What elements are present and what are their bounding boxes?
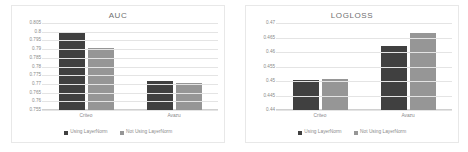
gridline — [276, 67, 452, 68]
bar — [322, 79, 348, 110]
legend-swatch-icon — [354, 131, 358, 135]
legend-swatch-icon — [298, 131, 302, 135]
y-axis-tick-label: 0.78 — [32, 64, 41, 69]
y-axis-tick-label: 0.445 — [264, 93, 276, 98]
bar — [176, 83, 202, 110]
legend-item[interactable]: Using LayerNorm — [298, 130, 342, 135]
y-axis-tick-label: 0.44 — [266, 108, 275, 113]
gridline — [42, 84, 218, 85]
bar — [59, 33, 85, 110]
legend-swatch-icon — [120, 131, 124, 135]
legend-item[interactable]: Not Using LayerNorm — [354, 130, 407, 135]
gridline — [42, 67, 218, 68]
legend-label: Using LayerNorm — [304, 130, 341, 135]
y-axis-tick-label: 0.455 — [264, 64, 276, 69]
gridline — [276, 52, 452, 53]
y-axis-tick-label: 0.8 — [35, 29, 41, 34]
y-axis-tick-label: 0.79 — [32, 47, 41, 52]
legend-label: Not Using LayerNorm — [126, 130, 172, 135]
y-axis-tick-label: 0.785 — [30, 56, 42, 61]
gridline — [42, 58, 218, 59]
chart-frame-logloss: LOGLOSS 0.470.4650.460.4550.450.4450.44 … — [245, 5, 459, 143]
y-axis-tick-label: 0.765 — [30, 90, 42, 95]
chart-panel-logloss: LOGLOSS 0.470.4650.460.4550.450.4450.44 … — [234, 0, 468, 152]
x-axis-labels-auc: CriteoAvazu — [42, 111, 218, 121]
y-axis-tick-label: 0.775 — [30, 73, 42, 78]
legend-item[interactable]: Using LayerNorm — [64, 130, 108, 135]
legend-item[interactable]: Not Using LayerNorm — [120, 130, 173, 135]
gridline — [42, 32, 218, 33]
plot-wrap-logloss: 0.470.4650.460.4550.450.4450.44 CriteoAv… — [246, 6, 458, 142]
legend-swatch-icon — [64, 131, 68, 135]
legend-logloss: Using LayerNormNot Using LayerNorm — [246, 130, 458, 135]
gridline — [42, 23, 218, 24]
legend-label: Using LayerNorm — [70, 130, 107, 135]
legend-label: Not Using LayerNorm — [360, 130, 406, 135]
y-axis-tick-label: 0.47 — [266, 21, 275, 26]
y-axis-tick-label: 0.45 — [266, 79, 275, 84]
x-axis-category-label: Avazu — [130, 111, 218, 121]
y-axis-tick-label: 0.805 — [30, 21, 42, 26]
y-axis-tick-label: 0.77 — [32, 82, 41, 87]
plot-area-logloss — [276, 23, 452, 110]
gridline — [276, 23, 452, 24]
y-axis-tick-label: 0.755 — [30, 108, 42, 113]
gridline — [42, 75, 218, 76]
y-axis-tick-label: 0.46 — [266, 50, 275, 55]
gridline — [276, 38, 452, 39]
bar — [147, 81, 173, 110]
x-axis-category-label: Avazu — [364, 111, 452, 121]
gridline — [42, 40, 218, 41]
y-axis-tick-label: 0.465 — [264, 35, 276, 40]
bar — [410, 33, 436, 110]
x-axis-category-label: Criteo — [42, 111, 130, 121]
gridline — [42, 101, 218, 102]
chart-panel-auc: AUC 0.8050.80.7950.790.7850.780.7750.770… — [0, 0, 234, 152]
gridline — [276, 81, 452, 82]
x-axis-category-label: Criteo — [276, 111, 364, 121]
plot-area-auc — [42, 23, 218, 110]
gridline — [276, 96, 452, 97]
x-axis-labels-logloss: CriteoAvazu — [276, 111, 452, 121]
plot-wrap-auc: 0.8050.80.7950.790.7850.780.7750.770.765… — [12, 6, 224, 142]
y-axis-tick-label: 0.76 — [32, 99, 41, 104]
chart-frame-auc: AUC 0.8050.80.7950.790.7850.780.7750.770… — [11, 5, 225, 143]
y-axis-logloss: 0.470.4650.460.4550.450.4450.44 — [248, 23, 275, 110]
bar — [381, 46, 407, 110]
y-axis-auc: 0.8050.80.7950.790.7850.780.7750.770.765… — [14, 23, 41, 110]
gridline — [42, 49, 218, 50]
y-axis-tick-label: 0.795 — [30, 38, 42, 43]
gridline — [42, 93, 218, 94]
legend-auc: Using LayerNormNot Using LayerNorm — [12, 130, 224, 135]
chart-pair-container: AUC 0.8050.80.7950.790.7850.780.7750.770… — [0, 0, 468, 152]
